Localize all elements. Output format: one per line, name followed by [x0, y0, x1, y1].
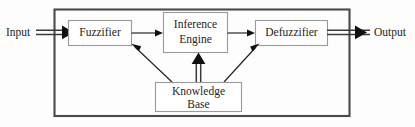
- node-inference-engine-label-line2: Engine: [179, 33, 212, 46]
- input-label: Input: [6, 26, 31, 39]
- node-knowledge-base-label-line2: Base: [187, 98, 209, 110]
- arrow-fuzzifier-to-inference: [132, 29, 164, 36]
- node-inference-engine-label-line1: Inference: [174, 18, 217, 30]
- arrow-knowledgebase-to-inference: [192, 53, 206, 83]
- arrow-knowledgebase-to-defuzzifier: [224, 44, 260, 82]
- node-knowledge-base-label-line1: Knowledge: [172, 85, 225, 98]
- fuzzy-inference-diagram: Fuzzifier Inference Engine Defuzzifier: [0, 0, 415, 127]
- arrow-inference-to-defuzzifier: [228, 29, 256, 36]
- output-label: Output: [374, 26, 407, 39]
- node-defuzzifier-label: Defuzzifier: [265, 26, 318, 38]
- diagram-canvas: Fuzzifier Inference Engine Defuzzifier: [0, 0, 415, 127]
- node-fuzzifier-label: Fuzzifier: [79, 26, 121, 38]
